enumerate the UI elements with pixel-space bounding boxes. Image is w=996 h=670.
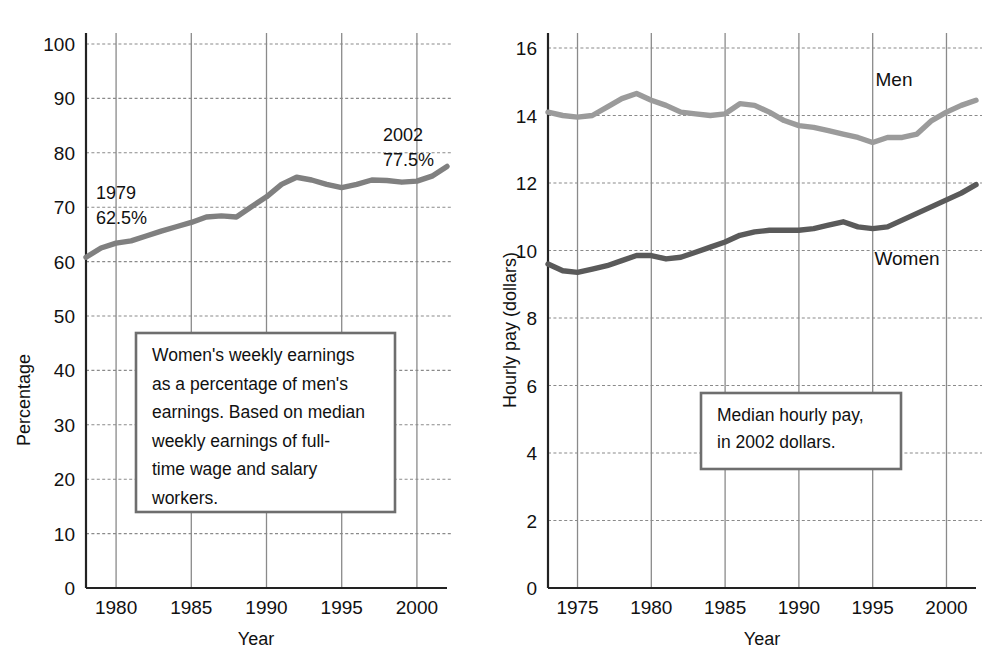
y-tick-label: 8: [526, 308, 537, 329]
y-tick-label: 10: [54, 524, 75, 545]
chart-panel-percentage: 0102030405060708090100 19801985199019952…: [0, 0, 498, 670]
page-bottom-strip: [0, 656, 996, 670]
y-tick-label: 14: [516, 106, 538, 127]
x-tick-labels-left: 19801985199019952000: [95, 597, 438, 618]
callout-line: earnings. Based on median: [152, 402, 365, 422]
annotation-2002-value: 77.5%: [383, 150, 434, 170]
series-label-men: Men: [876, 69, 913, 90]
x-axis-title-left: Year: [238, 629, 274, 649]
x-tick-label: 2000: [396, 597, 438, 618]
plot-axes-right: [548, 33, 976, 588]
x-tick-label: 1985: [704, 597, 746, 618]
callout-line: Median hourly pay,: [717, 405, 864, 425]
annotation-2002-year: 2002: [383, 125, 423, 145]
callout-line: as a percentage of men's: [152, 374, 348, 394]
y-tick-label: 50: [54, 306, 75, 327]
x-tick-label: 1975: [556, 597, 598, 618]
y-tick-label: 60: [54, 252, 75, 273]
hourly-pay-chart-svg: 0246810121416 197519801985199019952000 H…: [498, 0, 996, 670]
callout-line: Women's weekly earnings: [152, 345, 355, 365]
y-tick-label: 4: [526, 443, 537, 464]
men-line: [548, 94, 976, 143]
y-tick-label: 20: [54, 469, 75, 490]
x-tick-label: 1995: [321, 597, 363, 618]
y-tick-label: 0: [64, 578, 75, 599]
y-tick-labels-left: 0102030405060708090100: [43, 34, 75, 599]
y-tick-label: 0: [526, 578, 537, 599]
y-tick-label: 100: [43, 34, 75, 55]
y-tick-label: 6: [526, 376, 537, 397]
y-tick-label: 30: [54, 415, 75, 436]
callout-box-right: Median hourly pay,in 2002 dollars.: [701, 393, 901, 469]
x-tick-label: 1990: [778, 597, 820, 618]
x-tick-label: 1995: [852, 597, 894, 618]
y-axis-title-left: Percentage: [14, 354, 34, 446]
annotation-2002: 2002 77.5%: [383, 125, 434, 170]
callout-line: in 2002 dollars.: [717, 432, 836, 452]
chart-panel-hourly-pay: 0246810121416 197519801985199019952000 H…: [498, 0, 996, 670]
y-tick-label: 16: [516, 38, 537, 59]
y-tick-label: 80: [54, 143, 75, 164]
x-tick-label: 1980: [95, 597, 137, 618]
x-tick-label: 1980: [630, 597, 672, 618]
callout-line: workers.: [151, 488, 218, 508]
annotation-1979: 1979 62.5%: [96, 183, 147, 228]
callout-line: time wage and salary: [152, 459, 318, 479]
callout-line: weekly earnings of full-: [151, 431, 330, 451]
annotation-1979-value: 62.5%: [96, 208, 147, 228]
annotation-1979-year: 1979: [96, 183, 136, 203]
x-tick-label: 1985: [170, 597, 212, 618]
percentage-chart-svg: 0102030405060708090100 19801985199019952…: [0, 0, 498, 670]
y-axis-title-right: Hourly pay (dollars): [500, 252, 520, 408]
plot-grid-right: [548, 33, 982, 588]
y-tick-label: 40: [54, 360, 75, 381]
x-tick-labels-right: 197519801985199019952000: [556, 597, 967, 618]
callout-box-left: Women's weekly earningsas a percentage o…: [136, 333, 395, 512]
y-tick-label: 2: [526, 511, 537, 532]
x-tick-label: 1990: [245, 597, 287, 618]
x-axis-title-right: Year: [744, 629, 780, 649]
y-tick-label: 90: [54, 88, 75, 109]
y-tick-label: 70: [54, 197, 75, 218]
x-tick-label: 2000: [925, 597, 967, 618]
series-label-women: Women: [874, 248, 939, 269]
y-tick-label: 12: [516, 173, 537, 194]
